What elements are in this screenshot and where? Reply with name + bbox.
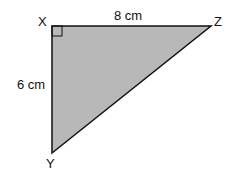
side-label-xy: 6 cm — [17, 78, 45, 91]
vertex-label-y: Y — [46, 157, 55, 170]
vertex-label-z: Z — [214, 15, 222, 28]
vertex-label-x: X — [38, 15, 47, 28]
triangle-xyz — [52, 26, 211, 153]
side-label-xz: 8 cm — [114, 9, 142, 22]
